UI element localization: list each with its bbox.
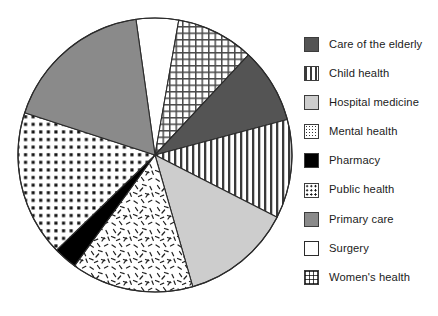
pie-chart-svg <box>0 0 300 316</box>
legend-item-mental-health[interactable]: Mental health <box>304 117 438 146</box>
legend-item-public-health[interactable]: Public health <box>304 175 438 204</box>
legend-label-pharmacy: Pharmacy <box>329 155 380 166</box>
legend-item-child-health[interactable]: Child health <box>304 59 438 88</box>
legend-swatch-care-of-the-elderly <box>304 37 319 52</box>
legend-label-womens-health: Women's health <box>329 272 410 283</box>
legend-label-child-health: Child health <box>329 68 389 79</box>
legend-label-care-of-the-elderly: Care of the elderly <box>329 39 422 50</box>
legend-swatch-hospital-medicine <box>304 95 319 110</box>
legend-item-pharmacy[interactable]: Pharmacy <box>304 146 438 175</box>
legend-item-surgery[interactable]: Surgery <box>304 234 438 263</box>
chart-legend: Care of the elderly Child health Hospita… <box>304 30 438 292</box>
legend-item-primary-care[interactable]: Primary care <box>304 205 438 234</box>
legend-label-public-health: Public health <box>329 184 394 195</box>
legend-item-hospital-medicine[interactable]: Hospital medicine <box>304 88 438 117</box>
pie-chart-plot-area <box>0 0 300 316</box>
legend-swatch-pharmacy <box>304 153 319 168</box>
legend-label-surgery: Surgery <box>329 243 369 254</box>
legend-swatch-surgery <box>304 241 319 256</box>
legend-item-womens-health[interactable]: Women's health <box>304 263 438 292</box>
legend-item-care-of-the-elderly[interactable]: Care of the elderly <box>304 30 438 59</box>
pie-slice-group <box>18 18 292 292</box>
legend-swatch-womens-health <box>304 270 319 285</box>
legend-label-hospital-medicine: Hospital medicine <box>329 97 419 108</box>
pie-chart-figure: Care of the elderly Child health Hospita… <box>0 0 438 316</box>
legend-label-primary-care: Primary care <box>329 214 394 225</box>
legend-label-mental-health: Mental health <box>329 126 397 137</box>
legend-swatch-primary-care <box>304 212 319 227</box>
legend-swatch-child-health <box>304 66 319 81</box>
legend-swatch-public-health <box>304 183 319 198</box>
legend-swatch-mental-health <box>304 124 319 139</box>
